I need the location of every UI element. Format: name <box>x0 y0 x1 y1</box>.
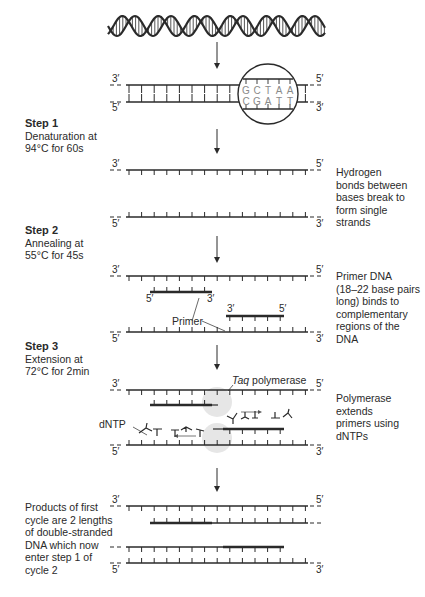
hydrogen-bonds-annotation: Hydrogen bonds between bases break to fo… <box>336 166 425 229</box>
svg-text:G: G <box>253 96 261 107</box>
five-prime-label: 5′ <box>112 218 119 229</box>
five-prime-label: 5′ <box>316 73 323 84</box>
svg-text:A: A <box>276 85 283 96</box>
five-prime-label: 5′ <box>316 494 323 505</box>
svg-text:C: C <box>253 85 260 96</box>
five-prime-label: 5′ <box>146 293 153 304</box>
three-prime-label: 3′ <box>112 264 119 275</box>
three-prime-label: 3′ <box>316 564 323 575</box>
three-prime-label: 3′ <box>316 102 323 113</box>
five-prime-label: 5′ <box>316 378 323 389</box>
five-prime-label: 5′ <box>279 303 286 314</box>
dntp-label: dNTP <box>99 418 126 431</box>
svg-text:C: C <box>242 96 249 107</box>
three-prime-label: 3′ <box>227 303 234 314</box>
polymerase-bottom-icon <box>202 423 232 453</box>
double-helix-icon <box>108 16 325 36</box>
svg-text:A: A <box>265 96 272 107</box>
three-prime-label: 3′ <box>316 333 323 344</box>
step-3-label: Step 3 Extension at 72°C for 2min <box>25 340 89 378</box>
svg-text:T: T <box>265 85 271 96</box>
magnifier-circle: G C T A A C G A T T <box>238 64 298 124</box>
five-prime-label: 5′ <box>316 264 323 275</box>
three-prime-label: 3′ <box>112 378 119 389</box>
svg-text:A: A <box>287 85 294 96</box>
five-prime-label: 5′ <box>112 564 119 575</box>
three-prime-label: 3′ <box>207 293 214 304</box>
svg-text:T: T <box>287 96 293 107</box>
three-prime-label: 3′ <box>112 73 119 84</box>
step-2-label: Step 2 Annealing at 55°C for 45s <box>25 224 83 262</box>
five-prime-label: 5′ <box>112 102 119 113</box>
svg-text:T: T <box>276 96 282 107</box>
five-prime-label: 5′ <box>316 158 323 169</box>
taq-polymerase-label: Taq polymerase <box>232 374 306 387</box>
products-annotation: Products of first cycle are 2 lengths of… <box>25 501 113 576</box>
step-1-label: Step 1 Denaturation at 94°C for 60s <box>25 117 97 155</box>
three-prime-label: 3′ <box>316 446 323 457</box>
five-prime-label: 5′ <box>112 446 119 457</box>
primer-dna-annotation: Primer DNA (18–22 base pairs long) binds… <box>336 270 425 345</box>
svg-text:G: G <box>242 85 250 96</box>
three-prime-label: 3′ <box>316 218 323 229</box>
three-prime-label: 3′ <box>112 158 119 169</box>
five-prime-label: 5′ <box>112 333 119 344</box>
three-prime-label: 3′ <box>112 494 119 505</box>
primer-label: Primer <box>172 315 203 328</box>
polymerase-annotation: Polymerase extends primers using dNTPs <box>336 392 425 442</box>
